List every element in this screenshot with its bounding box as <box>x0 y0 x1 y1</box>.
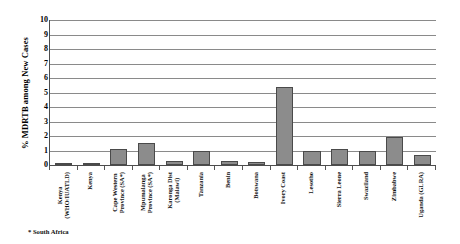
y-axis-tick-label: 6 <box>33 74 48 82</box>
category-label-slot: Karonga Dist (Malawi) <box>159 170 187 232</box>
category-label: Kenya (WHO/IUATLD) <box>55 172 70 219</box>
bar-slot <box>215 20 243 165</box>
category-label: Ivory Coast <box>280 172 287 204</box>
bar <box>55 163 72 165</box>
bar <box>248 162 265 165</box>
bar-slot <box>105 20 133 165</box>
y-axis-tick-label: 4 <box>33 103 48 111</box>
category-label-slot: Lesotho <box>297 170 325 232</box>
y-axis-tick-label: 9 <box>33 31 48 39</box>
y-axis-tick-label: 0 <box>33 161 48 169</box>
bar-slot <box>298 20 326 165</box>
category-label-slot: Sierra Leone <box>325 170 353 232</box>
bar-slot <box>78 20 106 165</box>
category-label: Tanzania <box>197 172 204 197</box>
bar <box>138 143 155 165</box>
bar <box>276 87 293 165</box>
bar <box>414 155 431 165</box>
category-label: Swaziland <box>362 172 369 200</box>
category-label-slot: Mpumalanga Province (SA*) <box>132 170 160 232</box>
y-axis-tick-label: 1 <box>33 147 48 155</box>
bar-slot <box>381 20 409 165</box>
category-label: Karonga Dist (Malawi) <box>166 172 181 209</box>
bar <box>193 151 210 165</box>
bar <box>83 163 100 165</box>
category-label-slot: Benin <box>214 170 242 232</box>
category-label: Sierra Leone <box>335 172 342 207</box>
category-label: Benin <box>225 172 232 188</box>
chart-figure: % MDRTB among New Cases 109876543210 Ken… <box>0 0 460 244</box>
plot-area <box>49 20 436 166</box>
category-label-slot: Cape Western Province (SA*) <box>104 170 132 232</box>
bar-slot <box>353 20 381 165</box>
bar <box>110 149 127 165</box>
category-label-slot: Kenya (WHO/IUATLD) <box>49 170 77 232</box>
category-label: Uganda (GLRA) <box>418 172 425 218</box>
bar-slot <box>326 20 354 165</box>
bar <box>303 151 320 166</box>
category-label-slot: Swaziland <box>352 170 380 232</box>
chart-footnote: * South Africa <box>28 228 69 235</box>
bar <box>331 149 348 165</box>
y-axis-title-text: % MDRTB among New Cases <box>20 36 30 148</box>
category-label-slot: Uganda (GLRA) <box>408 170 436 232</box>
bar-slot <box>271 20 299 165</box>
category-label-slot: Zimbabwe <box>380 170 408 232</box>
y-axis-tick-label: 3 <box>33 118 48 126</box>
category-label: Zimbabwe <box>390 172 397 201</box>
bar-series <box>50 20 436 165</box>
y-axis-tick-label: 10 <box>33 16 48 24</box>
category-label-slot: Botswana <box>242 170 270 232</box>
bar-slot <box>409 20 437 165</box>
y-axis-tick-label: 2 <box>33 132 48 140</box>
category-label-slot: Kenya <box>77 170 105 232</box>
category-label: Mpumalanga Province (SA*) <box>138 172 153 213</box>
x-axis-tick <box>435 166 436 170</box>
bar-slot <box>50 20 78 165</box>
y-axis-tick-label: 8 <box>33 45 48 53</box>
category-label: Lesotho <box>307 172 314 194</box>
bar <box>386 137 403 165</box>
bar <box>221 161 238 165</box>
y-axis-tick-labels: 109876543210 <box>33 20 48 165</box>
bar-slot <box>160 20 188 165</box>
bar <box>166 161 183 165</box>
bar <box>359 151 376 166</box>
bar-slot <box>133 20 161 165</box>
category-label: Kenya <box>87 172 94 190</box>
bar-slot <box>243 20 271 165</box>
category-label: Botswana <box>252 172 259 199</box>
y-axis-tick-label: 5 <box>33 89 48 97</box>
y-axis-tick-label: 7 <box>33 60 48 68</box>
bar-slot <box>188 20 216 165</box>
category-label-slot: Tanzania <box>187 170 215 232</box>
category-label-slot: Ivory Coast <box>270 170 298 232</box>
x-axis-category-labels: Kenya (WHO/IUATLD)KenyaCape Western Prov… <box>49 170 435 232</box>
category-label: Cape Western Province (SA*) <box>111 172 126 213</box>
